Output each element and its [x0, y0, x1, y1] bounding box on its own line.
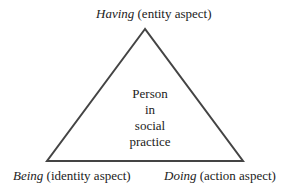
center-line: social	[120, 118, 180, 134]
center-line: Person	[120, 86, 180, 102]
center-line: practice	[120, 134, 180, 150]
having-term: Having	[96, 6, 134, 21]
center-label: Person in social practice	[120, 86, 180, 150]
doing-term: Doing	[164, 168, 197, 183]
bottom-left-vertex-label: Being (identity aspect)	[13, 168, 131, 183]
being-aspect: (identity aspect)	[47, 168, 131, 183]
center-line: in	[120, 102, 180, 118]
being-term: Being	[13, 168, 43, 183]
doing-aspect: (action aspect)	[200, 168, 276, 183]
top-vertex-label: Having (entity aspect)	[96, 6, 212, 21]
having-aspect: (entity aspect)	[138, 6, 212, 21]
bottom-right-vertex-label: Doing (action aspect)	[164, 168, 276, 183]
